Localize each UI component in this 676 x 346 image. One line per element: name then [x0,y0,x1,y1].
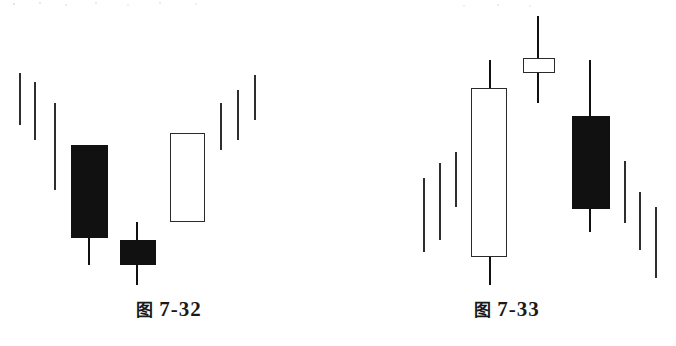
caption-number-left: 7-32 [159,297,202,321]
high-low-bar [639,192,641,250]
candle-body [572,116,610,209]
candle-body [471,88,507,257]
candle-body [170,133,205,222]
high-low-bar [254,75,256,120]
candlestick-plot-right [338,0,676,292]
caption-number-right: 7-33 [497,297,540,321]
high-low-bar [19,73,21,125]
figure-7-32: 图7-32 [0,0,338,346]
high-low-bar [220,103,222,150]
figure-7-33: 图7-33 [338,0,676,346]
high-low-bar [624,161,626,223]
figure-caption-right: 图7-33 [338,296,676,322]
high-low-bar [54,103,56,190]
high-low-bar [455,152,457,207]
candle-body [120,240,156,265]
caption-prefix-left: 图 [136,300,154,320]
high-low-bar [439,163,441,240]
caption-prefix-right: 图 [474,300,492,320]
high-low-bar [237,90,239,140]
candlestick-plot-left [0,0,338,292]
high-low-bar [655,207,657,278]
figure-caption-left: 图7-32 [0,296,338,322]
high-low-bar [34,82,36,140]
high-low-bar [423,178,425,252]
candle-body [71,145,108,238]
candle-body [523,58,555,73]
